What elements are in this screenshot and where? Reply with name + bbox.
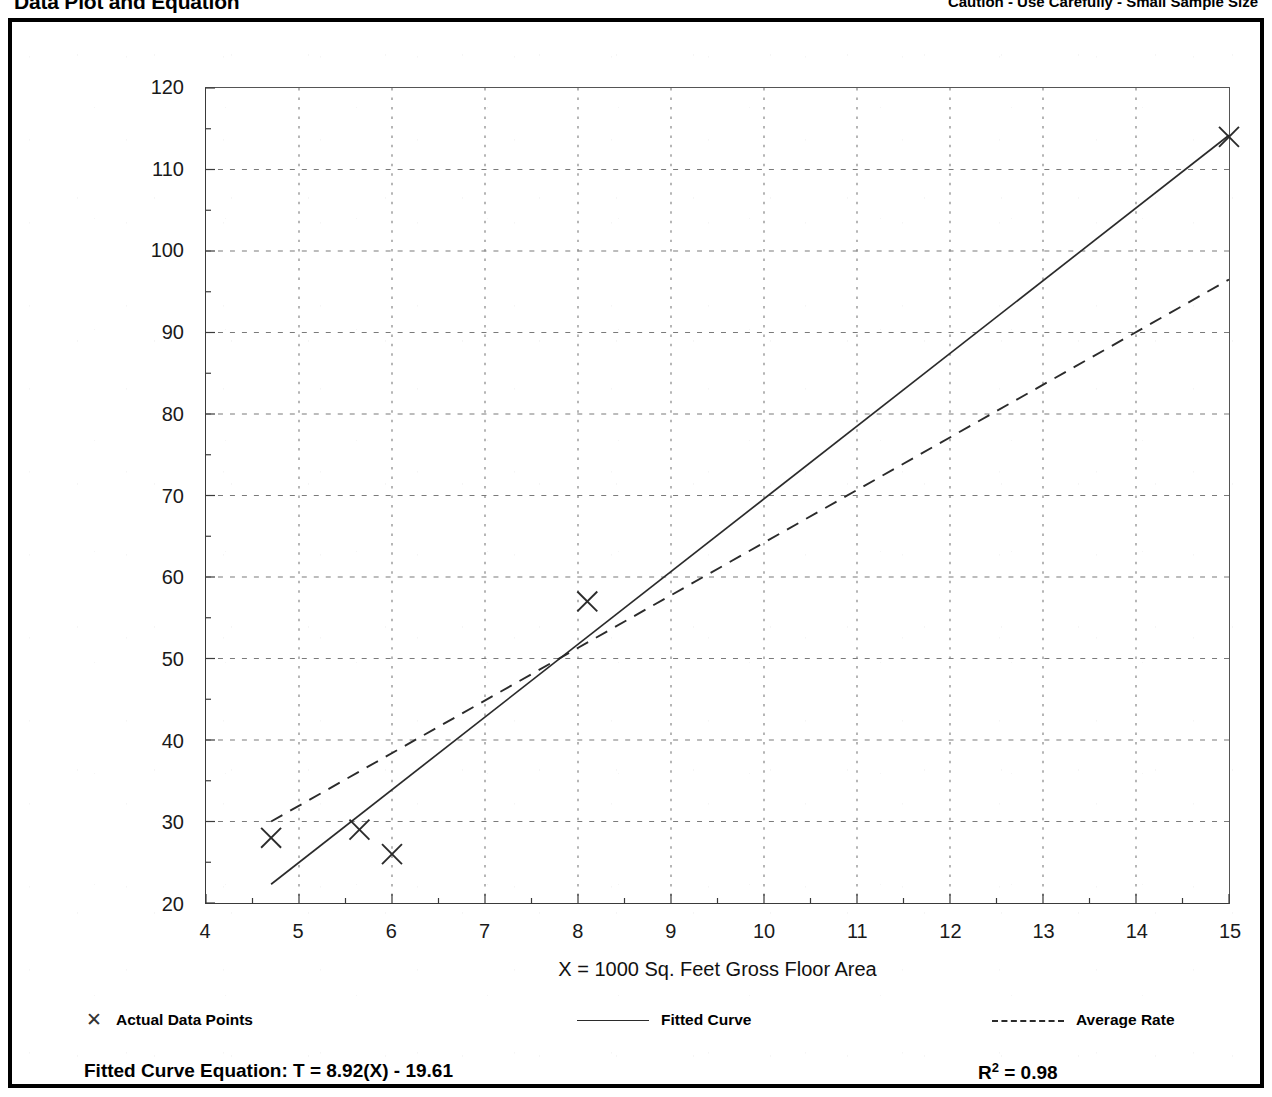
page-title: Data Plot and Equation: [14, 0, 239, 14]
r-squared-value: R2 = 0.98: [978, 1060, 1058, 1084]
x-axis-tick-label: 11: [847, 920, 868, 943]
x-axis-tick-label: 6: [386, 920, 397, 943]
legend-item-average-rate: Average Rate: [992, 1011, 1175, 1029]
x-axis-tick-label: 12: [939, 920, 961, 943]
y-axis-tick-label: 100: [122, 239, 184, 262]
y-axis-tick-label: 110: [122, 157, 184, 180]
y-axis-title-container: T = Average Vehicle Trip Ends: [34, 222, 94, 742]
x-axis-tick-label: 14: [1126, 920, 1148, 943]
data-point-marker: [261, 828, 281, 848]
y-axis-tick-label: 50: [122, 647, 184, 670]
caution-note: Caution - Use Carefully - Small Sample S…: [948, 0, 1258, 10]
y-axis-tick-label: 90: [122, 321, 184, 344]
x-axis-tick-label: 7: [479, 920, 490, 943]
x-axis-tick-label: 9: [665, 920, 676, 943]
data-point-marker: [349, 820, 369, 840]
legend-label: Average Rate: [1076, 1011, 1175, 1029]
y-axis-tick-label: 70: [122, 484, 184, 507]
x-axis-tick-label: 4: [199, 920, 210, 943]
y-axis-tick-label: 40: [122, 729, 184, 752]
plot-area: [205, 87, 1230, 904]
legend-label: Fitted Curve: [661, 1011, 751, 1029]
legend-item-fitted-curve: Fitted Curve: [577, 1011, 751, 1029]
y-axis-tick-label: 20: [122, 893, 184, 916]
y-axis-tick-label: 60: [122, 566, 184, 589]
r-value: = 0.98: [999, 1062, 1058, 1083]
data-point-marker: [577, 591, 597, 611]
x-axis-tick-label: 10: [753, 920, 775, 943]
x-axis-tick-label: 15: [1219, 920, 1241, 943]
data-point-marker: [382, 844, 402, 864]
figure-frame: T = Average Vehicle Trip Ends 2030405060…: [8, 18, 1264, 1088]
x-axis-tick-label: 5: [293, 920, 304, 943]
equation-row: Fitted Curve Equation: T = 8.92(X) - 19.…: [72, 1060, 1232, 1094]
r-exponent: 2: [992, 1060, 999, 1075]
x-axis-title: X = 1000 Sq. Feet Gross Floor Area: [205, 958, 1230, 981]
fitted-curve-equation: Fitted Curve Equation: T = 8.92(X) - 19.…: [84, 1060, 453, 1082]
data-series: [206, 88, 1229, 903]
y-axis-tick-label: 120: [122, 76, 184, 99]
y-axis-tick-label: 30: [122, 811, 184, 834]
x-axis-tick-label: 13: [1033, 920, 1055, 943]
dashed-line-icon: [992, 1013, 1064, 1027]
solid-line-icon: [577, 1013, 649, 1027]
cross-marker-icon: ✕: [84, 1013, 104, 1027]
x-axis-tick-label: 8: [572, 920, 583, 943]
data-point-marker: [1219, 127, 1239, 147]
page-header: Data Plot and Equation Caution - Use Car…: [0, 0, 1272, 16]
r-symbol: R: [978, 1062, 992, 1083]
y-axis-tick-label: 80: [122, 402, 184, 425]
legend-label: Actual Data Points: [116, 1011, 253, 1029]
legend-item-actual-data-points: ✕ Actual Data Points: [84, 1011, 253, 1029]
chart-legend: ✕ Actual Data Points Fitted Curve Averag…: [72, 1009, 1232, 1039]
